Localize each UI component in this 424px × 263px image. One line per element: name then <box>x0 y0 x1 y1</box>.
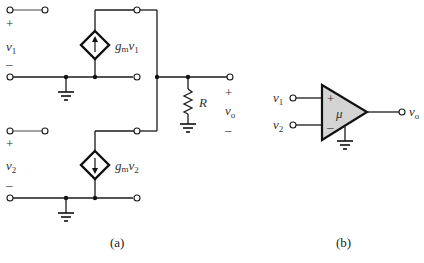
v1-minus-sign: – <box>5 56 13 71</box>
terminal-top-right <box>134 7 140 13</box>
dependent-current-source-1 <box>81 31 109 59</box>
terminal-top-rail-right <box>134 74 140 80</box>
input-port-2: + v2 – <box>5 128 48 192</box>
ground-icon <box>180 124 196 132</box>
terminal-v2-plus-left <box>7 128 13 134</box>
dependent-current-source-2 <box>81 151 109 179</box>
gm-v2-label: gmv2 <box>115 158 139 175</box>
terminal-v1-plus-left <box>7 7 13 13</box>
v2-minus-sign: – <box>5 177 13 192</box>
opamp-output-terminal <box>399 109 405 115</box>
opamp-minus-sign: – <box>326 119 334 134</box>
v1-label: v1 <box>6 39 16 56</box>
figure-b-caption: (b) <box>336 235 351 250</box>
vo-plus-sign: + <box>225 85 232 100</box>
terminal-output <box>227 74 233 80</box>
v2-label: v2 <box>6 158 16 175</box>
opamp-terminal-minus <box>290 122 296 128</box>
terminal-bottom-rail-right <box>134 195 140 201</box>
figure-b: v1 v2 + – μ vo (b) <box>273 85 420 250</box>
figure-a: + v1 – gmv1 <box>5 7 236 250</box>
vo-label: vo <box>225 103 236 120</box>
input-port-1: + v1 – <box>5 7 48 71</box>
ground-icon <box>58 198 74 221</box>
vo-minus-sign: – <box>224 122 232 137</box>
opamp-gain-label: μ <box>335 106 343 121</box>
circuit-diagram: + v1 – gmv1 <box>0 0 424 263</box>
opamp-terminal-plus <box>290 95 296 101</box>
v2-plus-sign: + <box>6 136 13 151</box>
opamp-v1-label: v1 <box>273 90 283 107</box>
v1-plus-sign: + <box>6 16 13 31</box>
terminal-v2-minus-left <box>7 195 13 201</box>
figure-a-caption: (a) <box>110 235 124 250</box>
terminal-bottom-top-right <box>134 128 140 134</box>
resistor-icon <box>184 77 192 124</box>
terminal-v1-plus-right <box>42 7 48 13</box>
opamp-vo-label: vo <box>409 104 420 121</box>
terminal-v2-plus-right <box>42 128 48 134</box>
opamp-v2-label: v2 <box>273 117 283 134</box>
resistor-label: R <box>198 95 207 110</box>
ground-icon <box>58 77 74 100</box>
terminal-v1-minus-left <box>7 74 13 80</box>
opamp-plus-sign: + <box>327 91 334 106</box>
gm-v1-label: gmv1 <box>115 38 139 55</box>
